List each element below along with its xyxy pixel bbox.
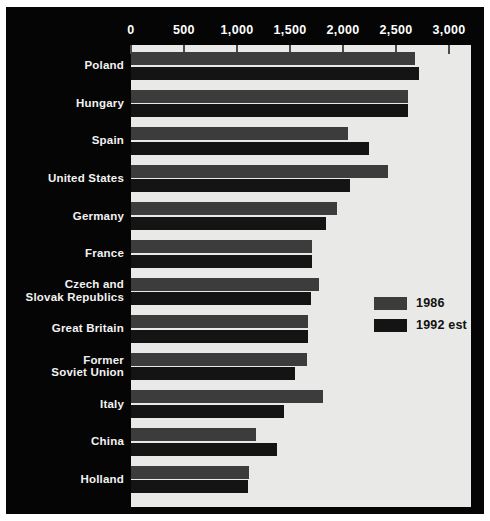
- bar-1986: [131, 466, 249, 479]
- bar-1986: [131, 390, 323, 403]
- category-label: Italy: [6, 398, 124, 411]
- bar-1986: [131, 165, 388, 178]
- bar-1992: [131, 104, 408, 117]
- category-label: China: [6, 435, 124, 448]
- legend-label-1986: 1986: [416, 296, 445, 310]
- x-axis-tick-label: 500: [173, 23, 195, 37]
- bar-1992: [131, 292, 311, 305]
- chart-screenshot: 05001,0001,5002,0002,5003,000 PolandHung…: [0, 0, 490, 521]
- category-label: Spain: [6, 134, 124, 147]
- legend-label-1992: 1992 est: [416, 318, 467, 332]
- category-label: Former Soviet Union: [6, 354, 124, 379]
- category-label: United States: [6, 172, 124, 185]
- chart-legend: 1986 1992 est: [374, 292, 467, 336]
- legend-item-1992: 1992 est: [374, 314, 467, 336]
- chart-panel: 05001,0001,5002,0002,5003,000 PolandHung…: [6, 7, 484, 514]
- bar-1992: [131, 405, 284, 418]
- category-label: Hungary: [6, 97, 124, 110]
- category-label: Czech and Slovak Republics: [6, 278, 124, 303]
- category-label: Poland: [6, 59, 124, 72]
- x-axis-tick-label: 1,500: [274, 23, 307, 37]
- bar-1992: [131, 217, 326, 230]
- x-axis-tick-label: 1,000: [221, 23, 254, 37]
- bar-1986: [131, 315, 308, 328]
- legend-swatch-1986: [374, 297, 407, 310]
- category-label: Great Britain: [6, 322, 124, 335]
- x-axis-tick-label: 2,000: [327, 23, 360, 37]
- x-axis-tick-label: 2,500: [380, 23, 413, 37]
- bar-1986: [131, 353, 307, 366]
- bar-1986: [131, 52, 415, 65]
- bar-1992: [131, 330, 308, 343]
- category-label: Germany: [6, 210, 124, 223]
- x-axis-tick: [448, 45, 450, 54]
- bar-1992: [131, 443, 277, 456]
- legend-item-1986: 1986: [374, 292, 467, 314]
- x-axis-tick-label: 3,000: [433, 23, 466, 37]
- bar-1986: [131, 240, 312, 253]
- category-label: Holland: [6, 473, 124, 486]
- bar-1986: [131, 278, 319, 291]
- bar-1986: [131, 127, 348, 140]
- bar-1992: [131, 367, 295, 380]
- bar-1992: [131, 67, 419, 80]
- bar-1992: [131, 255, 312, 268]
- bar-1986: [131, 202, 337, 215]
- bar-1986: [131, 90, 408, 103]
- bar-1986: [131, 428, 256, 441]
- bar-1992: [131, 480, 248, 493]
- bar-1992: [131, 142, 369, 155]
- legend-swatch-1992: [374, 319, 407, 332]
- category-label: France: [6, 247, 124, 260]
- bar-1992: [131, 179, 350, 192]
- x-axis-tick-label: 0: [127, 23, 134, 37]
